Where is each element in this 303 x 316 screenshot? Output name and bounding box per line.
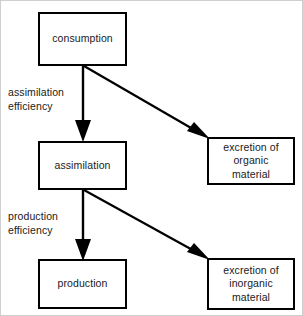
edge-consumption-to-assimilation bbox=[75, 65, 91, 142]
node-excretion-of-organic-material[interactable]: excretion of organic material bbox=[207, 137, 295, 185]
node-production-label: production bbox=[54, 277, 110, 291]
edge-assimilation-to-excretion-inorganic bbox=[84, 190, 210, 260]
node-assimilation[interactable]: assimilation bbox=[38, 141, 127, 190]
node-excretion-of-organic-material-label: excretion of organic material bbox=[220, 141, 281, 182]
node-consumption-label: consumption bbox=[49, 32, 116, 46]
node-excretion-of-inorganic-material[interactable]: excretion of inorganic material bbox=[207, 258, 295, 310]
node-consumption[interactable]: consumption bbox=[38, 12, 127, 66]
edge-label-production-efficiency: production efficiency bbox=[8, 209, 58, 237]
node-assimilation-label: assimilation bbox=[51, 159, 113, 173]
node-excretion-of-inorganic-material-label: excretion of inorganic material bbox=[220, 264, 281, 305]
edge-consumption-to-excretion-organic bbox=[84, 66, 210, 139]
node-production[interactable]: production bbox=[38, 259, 127, 309]
edge-label-assimilation-efficiency: assimilation efficiency bbox=[8, 85, 64, 113]
flow-diagram: consumption assimilation production excr… bbox=[0, 0, 303, 316]
edge-assimilation-to-production bbox=[75, 189, 91, 261]
